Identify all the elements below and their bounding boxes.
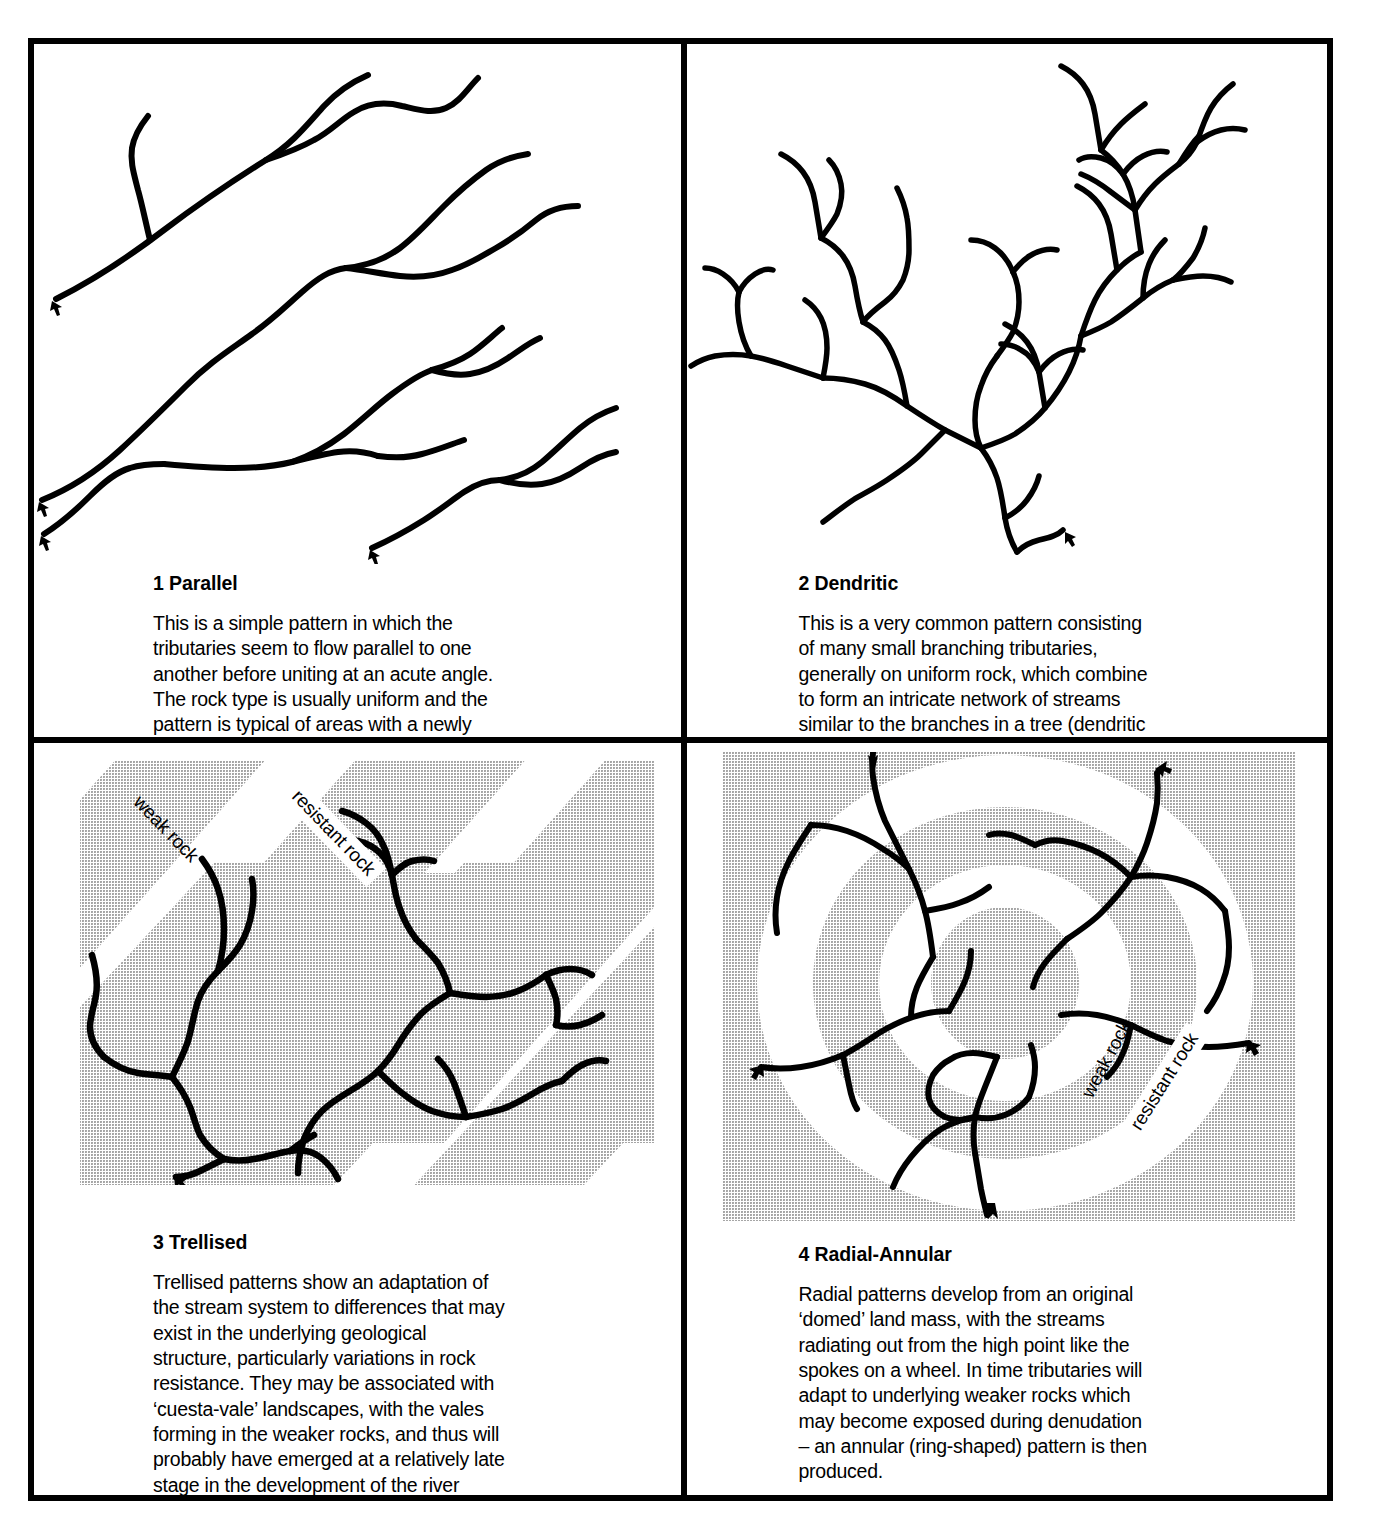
- caption-body-pre: Trellised patterns show an adaptation of…: [153, 1271, 505, 1495]
- panel-grid: 1 Parallel This is a simple pattern in w…: [34, 44, 1327, 1495]
- caption-body: Trellised patterns show an adaptation of…: [153, 1270, 653, 1495]
- panel-trellised: weak rock resistant rock 3 Trellised Tre…: [34, 737, 681, 1495]
- dendritic-diagram: [687, 44, 1328, 564]
- caption-title: 1 Parallel: [153, 572, 653, 595]
- caption-body: Radial patterns develop from an original…: [799, 1282, 1309, 1485]
- parallel-diagram: [34, 44, 681, 564]
- flow-arrow-group: [1065, 532, 1076, 547]
- radial-annular-diagram: [687, 743, 1328, 1221]
- caption-trellised: 3 Trellised Trellised patterns show an a…: [153, 1231, 653, 1495]
- caption-title: 4 Radial-Annular: [799, 1243, 1309, 1266]
- caption-body: This is a simple pattern in which the tr…: [153, 611, 653, 737]
- caption-parallel: 1 Parallel This is a simple pattern in w…: [153, 572, 653, 737]
- caption-body-pre: This is a simple pattern in which the tr…: [153, 612, 493, 737]
- panel-dendritic: 2 Dendritic This is a very common patter…: [681, 44, 1328, 737]
- radial-annular-svg: [687, 743, 1328, 1221]
- caption-body-pre: Radial patterns develop from an original…: [799, 1283, 1147, 1482]
- caption-dendritic: 2 Dendritic This is a very common patter…: [799, 572, 1309, 737]
- caption-body: This is a very common pattern consisting…: [799, 611, 1309, 737]
- caption-body-pre: This is a very common pattern consisting…: [799, 612, 1148, 737]
- caption-title: 2 Dendritic: [799, 572, 1309, 595]
- panel-parallel: 1 Parallel This is a simple pattern in w…: [34, 44, 681, 737]
- annular-rings: [723, 752, 1296, 1221]
- caption-title: 3 Trellised: [153, 1231, 653, 1254]
- flow-arrow-group: [37, 301, 380, 564]
- panel-radial-annular: weak rock resistant rock 4 Radial-Annula…: [681, 737, 1328, 1495]
- parallel-streams-svg: [34, 44, 680, 564]
- dendritic-streams-svg: [687, 44, 1328, 564]
- caption-radial-annular: 4 Radial-Annular Radial patterns develop…: [799, 1243, 1309, 1485]
- figure-frame: 1 Parallel This is a simple pattern in w…: [28, 38, 1333, 1501]
